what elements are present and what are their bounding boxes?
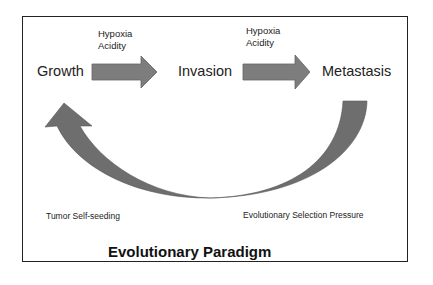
transition-1-conditions: Hypoxia Acidity <box>98 28 132 52</box>
arrow-invasion-to-metastasis-icon <box>243 55 310 89</box>
transition-2-conditions: Hypoxia Acidity <box>246 25 280 49</box>
arrow-growth-to-invasion-icon <box>92 56 157 88</box>
curved-feedback-arrow-icon <box>45 101 367 198</box>
condition-hypoxia-1: Hypoxia <box>98 28 132 40</box>
label-evolutionary-selection-pressure: Evolutionary Selection Pressure <box>243 210 363 220</box>
diagram-title: Evolutionary Paradigm <box>108 243 271 260</box>
stage-invasion: Invasion <box>178 63 232 79</box>
condition-acidity-2: Acidity <box>246 37 280 49</box>
stage-growth: Growth <box>37 63 84 79</box>
stage-metastasis: Metastasis <box>322 63 391 79</box>
condition-acidity-1: Acidity <box>98 40 132 52</box>
label-tumor-self-seeding: Tumor Self-seeding <box>46 211 120 221</box>
condition-hypoxia-2: Hypoxia <box>246 25 280 37</box>
